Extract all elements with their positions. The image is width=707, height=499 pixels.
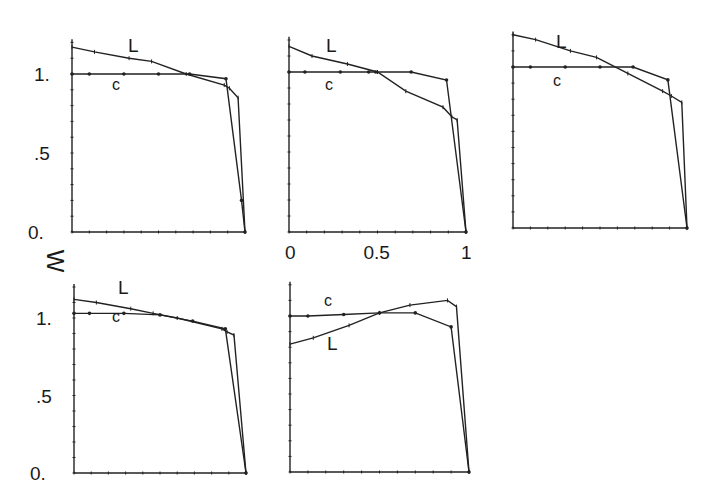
series-C-panel-4 xyxy=(74,313,246,473)
label-C-panel-2: c xyxy=(325,76,333,93)
series-L-panel-5 xyxy=(290,300,469,472)
series-C-panel-2 xyxy=(289,72,466,232)
label-L-panel-1: L xyxy=(128,35,139,56)
label-C-panel-4: c xyxy=(112,308,120,325)
chart-figure: LcLcLcLcLc0..51.0..51.00.51W xyxy=(0,0,707,499)
label-C-panel-5: c xyxy=(324,292,332,309)
y-tick-05: .5 xyxy=(34,143,50,164)
x-tick-0: 0 xyxy=(285,242,296,263)
series-L-panel-3 xyxy=(513,35,687,228)
series-C-panel-1 xyxy=(72,74,245,232)
series-L-panel-2 xyxy=(289,46,466,232)
label-L-panel-3: L xyxy=(556,31,567,52)
x-tick-1: 1 xyxy=(461,242,472,263)
y-tick-05: .5 xyxy=(36,386,52,407)
label-C-panel-3: c xyxy=(553,72,561,89)
label-L-panel-2: L xyxy=(326,35,337,56)
y-tick-1: 1. xyxy=(34,64,50,85)
y-tick-0: 0. xyxy=(30,463,46,484)
label-C-panel-1: c xyxy=(112,76,120,93)
y-tick-1: 1. xyxy=(36,308,52,329)
x-tick-05: 0.5 xyxy=(364,242,390,263)
series-C-panel-3 xyxy=(513,67,687,228)
label-L-panel-5: L xyxy=(327,333,338,354)
series-L-panel-4 xyxy=(74,299,246,473)
y-tick-0: 0. xyxy=(28,222,44,243)
label-L-panel-4: L xyxy=(118,277,129,298)
y-axis-label: W xyxy=(42,250,69,273)
